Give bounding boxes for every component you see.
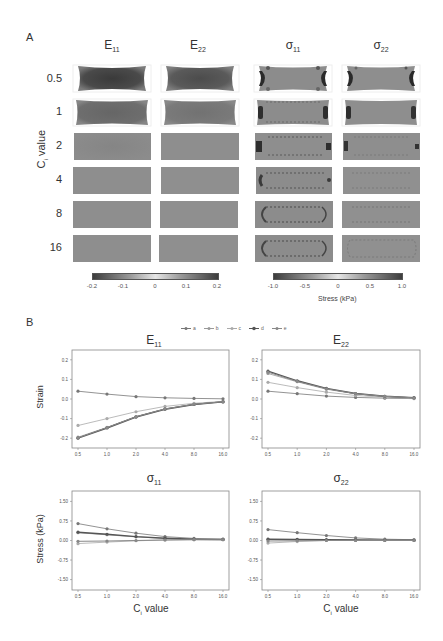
data-point (105, 426, 108, 429)
x-tick-label: 4.0 (352, 452, 359, 457)
y-tick-label: -0.1 (60, 416, 68, 421)
data-point (105, 417, 108, 420)
data-point (296, 386, 299, 389)
y-tick-label: -0.75 (248, 558, 259, 563)
data-point (221, 538, 224, 541)
x-tick-label: 4.0 (162, 452, 169, 457)
x-tick-label: 1.0 (294, 452, 301, 457)
y-tick-label: 0.2 (62, 358, 69, 363)
data-point (134, 539, 137, 542)
x-tick-label: 16.0 (410, 594, 419, 599)
y-tick-label: -1.50 (248, 577, 259, 582)
x-tick-label: 4.0 (352, 594, 359, 599)
data-point (134, 535, 137, 538)
y-tick-label: -1.50 (58, 577, 69, 582)
data-point (354, 539, 357, 542)
y-tick-label: 0.2 (252, 358, 259, 363)
x-tick-label: 16.0 (219, 594, 228, 599)
y-tick-label: -0.2 (250, 436, 258, 441)
data-point (383, 395, 386, 398)
y-tick-label: -0.1 (250, 416, 258, 421)
data-point (192, 397, 195, 400)
data-point (266, 390, 269, 393)
data-point (325, 539, 328, 542)
data-point (192, 403, 195, 406)
y-tick-label: 0.0 (62, 397, 69, 402)
data-point (266, 371, 269, 374)
data-point (296, 380, 299, 383)
data-point (76, 390, 79, 393)
data-point (325, 391, 328, 394)
data-point (163, 396, 166, 399)
y-tick-label: -0.2 (60, 436, 68, 441)
plot-frame (262, 350, 420, 448)
x-tick-label: 0.5 (265, 594, 272, 599)
x-tick-label: 1.0 (294, 594, 301, 599)
plot-frame (72, 350, 229, 448)
x-tick-label: 2.0 (323, 594, 330, 599)
data-point (76, 522, 79, 525)
data-point (325, 534, 328, 537)
x-tick-label: 8.0 (382, 452, 389, 457)
y-tick-label: 0.00 (59, 538, 68, 543)
data-point (105, 527, 108, 530)
x-tick-label: 2.0 (133, 594, 140, 599)
x-tick-label: 1.0 (104, 452, 111, 457)
data-point (76, 424, 79, 427)
x-tick-label: 0.5 (75, 594, 82, 599)
data-point (134, 532, 137, 535)
data-point (325, 387, 328, 390)
data-point (325, 394, 328, 397)
y-tick-label: 0.75 (59, 519, 68, 524)
x-tick-label: 2.0 (323, 452, 330, 457)
data-point (221, 400, 224, 403)
y-tick-label: 0.1 (62, 377, 69, 382)
y-tick-label: 1.50 (249, 499, 258, 504)
data-point (163, 538, 166, 541)
data-point (163, 407, 166, 410)
x-tick-label: 4.0 (162, 594, 169, 599)
data-point (266, 539, 269, 542)
data-point (296, 392, 299, 395)
y-tick-label: 0.0 (252, 397, 259, 402)
data-point (134, 410, 137, 413)
series-line-e (268, 541, 414, 542)
data-point (266, 381, 269, 384)
data-point (412, 539, 415, 542)
data-point (354, 392, 357, 395)
x-tick-label: 8.0 (191, 594, 198, 599)
y-tick-label: 0.75 (249, 519, 258, 524)
data-point (134, 395, 137, 398)
data-point (76, 540, 79, 543)
y-tick-label: -0.75 (58, 558, 69, 563)
data-point (296, 539, 299, 542)
x-tick-label: 0.5 (75, 452, 82, 457)
x-tick-label: 8.0 (382, 594, 389, 599)
y-tick-label: 0.1 (252, 377, 259, 382)
data-point (412, 396, 415, 399)
data-point (105, 533, 108, 536)
data-point (192, 538, 195, 541)
x-tick-label: 16.0 (410, 452, 419, 457)
line-plots: 0.20.10.0-0.1-0.20.51.02.04.08.016.00.20… (0, 0, 443, 641)
data-point (105, 393, 108, 396)
x-tick-label: 1.0 (104, 594, 111, 599)
data-point (76, 531, 79, 534)
data-point (134, 415, 137, 418)
data-point (266, 528, 269, 531)
data-point (296, 531, 299, 534)
x-tick-label: 2.0 (133, 452, 140, 457)
data-point (105, 539, 108, 542)
x-tick-label: 0.5 (265, 452, 272, 457)
data-point (76, 436, 79, 439)
x-tick-label: 8.0 (191, 452, 198, 457)
data-point (383, 539, 386, 542)
x-tick-label: 16.0 (219, 452, 228, 457)
y-tick-label: 0.00 (249, 538, 258, 543)
y-tick-label: 1.50 (59, 499, 68, 504)
